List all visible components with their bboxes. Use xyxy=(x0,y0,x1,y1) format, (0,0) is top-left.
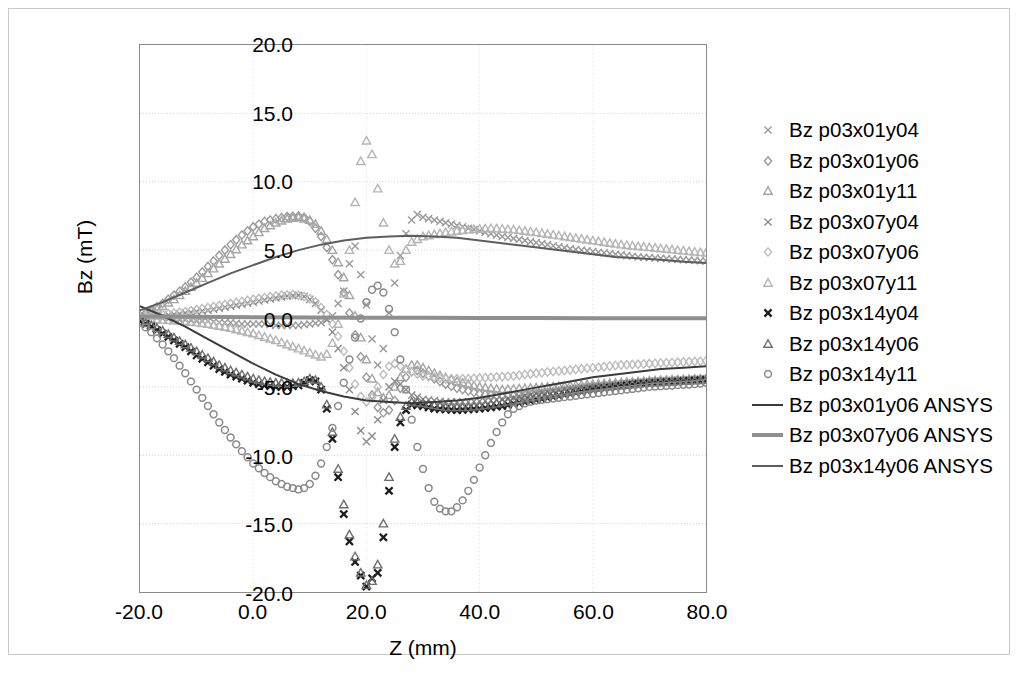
x-axis-title: Z (mm) xyxy=(139,636,707,660)
legend-label: Bz p03x01y11 xyxy=(789,181,917,202)
x-tick-label: 20.0 xyxy=(306,601,426,622)
y-axis-title: Bz (mT) xyxy=(73,187,97,327)
legend-marker-diamond-icon xyxy=(749,146,789,176)
legend-label: Bz p03x07y04 xyxy=(789,212,919,233)
legend-item[interactable]: Bz p03x01y06 ANSYS xyxy=(749,390,1011,421)
y-tick-label: 15.0 xyxy=(203,103,293,124)
legend-label: Bz p03x01y04 xyxy=(789,120,919,141)
legend-label: Bz p03x01y06 ANSYS xyxy=(789,395,993,416)
legend-label: Bz p03x14y04 xyxy=(789,303,919,324)
y-tick-label: -10.0 xyxy=(203,446,293,467)
legend-marker-x-icon xyxy=(749,115,789,145)
legend-marker-line-icon xyxy=(749,390,789,420)
y-tick-label: 20.0 xyxy=(203,34,293,55)
legend-item[interactable]: Bz p03x01y04 xyxy=(749,115,1011,146)
legend-marker-circle-icon xyxy=(749,359,789,389)
y-tick-label: 5.0 xyxy=(203,240,293,261)
legend-item[interactable]: Bz p03x01y06 xyxy=(749,146,1011,177)
legend-label: Bz p03x14y06 ANSYS xyxy=(789,456,993,477)
x-tick-label: 60.0 xyxy=(533,601,653,622)
legend-label: Bz p03x14y11 xyxy=(789,364,917,385)
figure-frame: 20.015.010.05.00.0-5.0-10.0-15.0-20.0 -2… xyxy=(8,8,1010,655)
legend-marker-line-icon xyxy=(749,451,789,481)
legend-item[interactable]: Bz p03x14y06 xyxy=(749,329,1011,360)
legend-item[interactable]: Bz p03x14y11 xyxy=(749,359,1011,390)
legend-item[interactable]: Bz p03x07y06 ANSYS xyxy=(749,420,1011,451)
legend-marker-triangle-icon xyxy=(749,176,789,206)
legend-item[interactable]: Bz p03x07y06 xyxy=(749,237,1011,268)
legend-marker-x-bold-icon xyxy=(749,298,789,328)
legend-marker-triangle-icon xyxy=(749,268,789,298)
y-tick-label: 10.0 xyxy=(203,171,293,192)
legend-label: Bz p03x07y11 xyxy=(789,273,917,294)
y-tick-label: -15.0 xyxy=(203,514,293,535)
legend-item[interactable]: Bz p03x07y11 xyxy=(749,268,1011,299)
legend-marker-x-icon xyxy=(749,207,789,237)
x-tick-label: 80.0 xyxy=(647,601,767,622)
legend-label: Bz p03x07y06 xyxy=(789,242,919,263)
x-tick-label: 0.0 xyxy=(193,601,313,622)
legend-marker-triangle-icon xyxy=(749,329,789,359)
chart-legend: Bz p03x01y04Bz p03x01y06Bz p03x01y11Bz p… xyxy=(749,115,1011,481)
legend-item[interactable]: Bz p03x14y04 xyxy=(749,298,1011,329)
legend-marker-line-thick-icon xyxy=(749,420,789,450)
legend-label: Bz p03x07y06 ANSYS xyxy=(789,425,993,446)
legend-label: Bz p03x01y06 xyxy=(789,151,919,172)
legend-item[interactable]: Bz p03x07y04 xyxy=(749,207,1011,238)
legend-item[interactable]: Bz p03x01y11 xyxy=(749,176,1011,207)
y-tick-label: -5.0 xyxy=(203,377,293,398)
y-tick-label: 0.0 xyxy=(203,309,293,330)
legend-item[interactable]: Bz p03x14y06 ANSYS xyxy=(749,451,1011,482)
legend-marker-diamond-icon xyxy=(749,237,789,267)
x-tick-label: -20.0 xyxy=(79,601,199,622)
legend-label: Bz p03x14y06 xyxy=(789,334,919,355)
x-tick-label: 40.0 xyxy=(420,601,540,622)
